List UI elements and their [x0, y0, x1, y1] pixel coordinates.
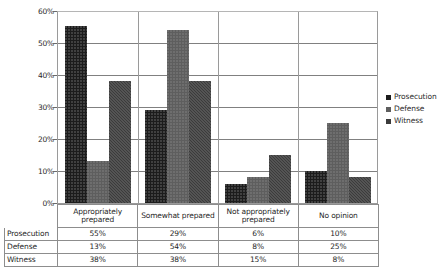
table-row: Prosecution 55% 29% 6% 10% [5, 228, 379, 241]
bar-group [138, 12, 218, 203]
bar-witness[interactable] [269, 155, 291, 203]
table-category-header: Somewhat prepared [138, 205, 218, 228]
table-header-row: Appropriately prepared Somewhat prepared… [5, 205, 379, 228]
bar-prosecution[interactable] [225, 184, 247, 203]
bar-defense[interactable] [87, 161, 109, 203]
table-row: Defense 13% 54% 8% 25% [5, 241, 379, 254]
table-value-cell: 29% [138, 228, 218, 241]
legend-swatch-icon [386, 119, 391, 124]
table-row-label: Prosecution [5, 228, 58, 241]
table-value-cell: 10% [298, 228, 378, 241]
legend-label: Prosecution [394, 93, 437, 101]
bar-prosecution[interactable] [145, 110, 167, 203]
legend-swatch-icon [386, 107, 391, 112]
table-value-cell: 6% [218, 228, 298, 241]
table-category-header: No opinion [298, 205, 378, 228]
bar-defense[interactable] [167, 30, 189, 203]
data-table: Appropriately prepared Somewhat prepared… [4, 204, 379, 267]
legend-item-defense[interactable]: Defense [386, 103, 444, 115]
legend: Prosecution Defense Witness [386, 91, 444, 127]
table-row-label: Witness [5, 254, 58, 267]
plot-wrapper: 60% 50% 40% 30% 20% 10% 0% [0, 0, 444, 212]
legend-item-prosecution[interactable]: Prosecution [386, 91, 444, 103]
y-tick-label: 60% [14, 8, 54, 16]
table-corner-cell [5, 205, 58, 228]
table-category-header: Not appropriately prepared [218, 205, 298, 228]
table-value-cell: 13% [58, 241, 138, 254]
table-value-cell: 8% [298, 254, 378, 267]
table-category-header: Appropriately prepared [58, 205, 138, 228]
y-tick-label: 50% [14, 40, 54, 48]
bar-defense[interactable] [247, 177, 269, 203]
bar-witness[interactable] [189, 81, 211, 203]
bar-prosecution[interactable] [65, 26, 87, 203]
table-value-cell: 25% [298, 241, 378, 254]
table-value-cell: 38% [138, 254, 218, 267]
y-tick-label: 10% [14, 168, 54, 176]
y-tick-label: 30% [14, 104, 54, 112]
bar-chart-with-data-table: 60% 50% 40% 30% 20% 10% 0% [0, 0, 444, 269]
bar-prosecution[interactable] [305, 171, 327, 203]
table-value-cell: 8% [218, 241, 298, 254]
bar-group [298, 12, 378, 203]
legend-label: Witness [394, 117, 423, 125]
bar-group [58, 12, 138, 203]
plot-area [57, 11, 378, 204]
table-value-cell: 55% [58, 228, 138, 241]
table-value-cell: 54% [138, 241, 218, 254]
y-tick-label: 40% [14, 72, 54, 80]
table-value-cell: 38% [58, 254, 138, 267]
bar-defense[interactable] [327, 123, 349, 203]
bar-witness[interactable] [109, 81, 131, 203]
bar-witness[interactable] [349, 177, 371, 203]
legend-swatch-icon [386, 95, 391, 100]
y-tick-label: 20% [14, 136, 54, 144]
legend-item-witness[interactable]: Witness [386, 115, 444, 127]
table-value-cell: 15% [218, 254, 298, 267]
table-row-label: Defense [5, 241, 58, 254]
table-row: Witness 38% 38% 15% 8% [5, 254, 379, 267]
legend-label: Defense [394, 105, 424, 113]
bar-group [218, 12, 298, 203]
